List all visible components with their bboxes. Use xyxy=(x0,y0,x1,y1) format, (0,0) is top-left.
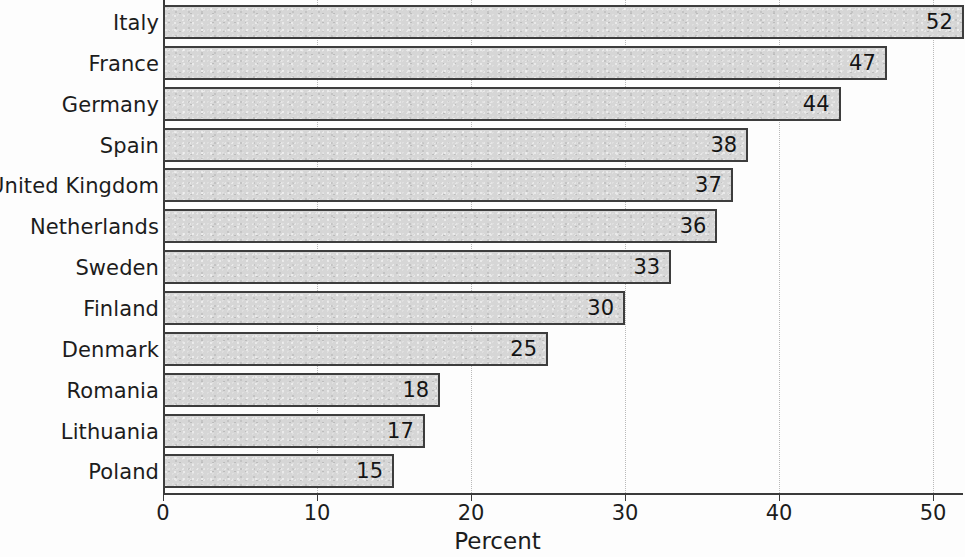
bar-row: Lithuania17 xyxy=(0,412,965,453)
bar-value-label: 52 xyxy=(926,7,953,37)
bar[interactable]: 52 xyxy=(163,5,964,39)
x-axis-title: Percent xyxy=(0,528,965,554)
category-label: Romania xyxy=(66,371,159,412)
category-label: Poland xyxy=(88,452,159,493)
category-label: Italy xyxy=(113,3,159,44)
bar-value-label: 17 xyxy=(387,416,414,446)
x-tick-label: 30 xyxy=(595,501,655,525)
x-tick-label: 20 xyxy=(441,501,501,525)
bar[interactable]: 30 xyxy=(163,291,625,325)
bar-value-label: 18 xyxy=(402,375,429,405)
bar-row: France47 xyxy=(0,44,965,85)
plot-area: Italy52France47Germany44Spain38United Ki… xyxy=(0,0,965,495)
bar[interactable]: 37 xyxy=(163,168,733,202)
bar[interactable]: 15 xyxy=(163,454,394,488)
x-tick-label: 50 xyxy=(903,501,963,525)
x-tick-label: 10 xyxy=(287,501,347,525)
bar-row: Germany44 xyxy=(0,85,965,126)
category-label: Spain xyxy=(100,126,159,167)
bar-row: United Kingdom37 xyxy=(0,166,965,207)
category-label: Netherlands xyxy=(30,207,159,248)
category-label: Finland xyxy=(83,289,159,330)
bar[interactable]: 38 xyxy=(163,128,748,162)
bar-row: Denmark25 xyxy=(0,330,965,371)
bar-value-label: 33 xyxy=(633,252,660,282)
x-axis: 01020304050 Percent xyxy=(0,495,965,557)
category-label: Germany xyxy=(62,85,159,126)
bar-row: Finland30 xyxy=(0,289,965,330)
bar-value-label: 30 xyxy=(587,293,614,323)
bar[interactable]: 47 xyxy=(163,46,887,80)
bar[interactable]: 36 xyxy=(163,209,717,243)
bar-value-label: 25 xyxy=(510,334,537,364)
bar-row: Italy52 xyxy=(0,3,965,44)
bar-value-label: 47 xyxy=(849,48,876,78)
x-tick-label: 0 xyxy=(133,501,193,525)
bar[interactable]: 17 xyxy=(163,414,425,448)
category-label: Denmark xyxy=(62,330,159,371)
bar-row: Sweden33 xyxy=(0,248,965,289)
bar[interactable]: 18 xyxy=(163,373,440,407)
category-label: Sweden xyxy=(75,248,159,289)
bar-row: Poland15 xyxy=(0,452,965,493)
category-label: United Kingdom xyxy=(0,166,159,207)
bar-value-label: 37 xyxy=(695,170,722,200)
x-tick-label: 40 xyxy=(749,501,809,525)
category-label: France xyxy=(89,44,159,85)
bar-value-label: 44 xyxy=(803,89,830,119)
bar-value-label: 38 xyxy=(710,130,737,160)
bar[interactable]: 25 xyxy=(163,332,548,366)
bar-row: Spain38 xyxy=(0,126,965,167)
bar-chart: Italy52France47Germany44Spain38United Ki… xyxy=(0,0,965,557)
bar[interactable]: 44 xyxy=(163,87,841,121)
bar-row: Romania18 xyxy=(0,371,965,412)
bar-row: Netherlands36 xyxy=(0,207,965,248)
bar[interactable]: 33 xyxy=(163,250,671,284)
category-label: Lithuania xyxy=(61,412,159,453)
bar-value-label: 36 xyxy=(680,211,707,241)
bar-value-label: 15 xyxy=(356,456,383,486)
